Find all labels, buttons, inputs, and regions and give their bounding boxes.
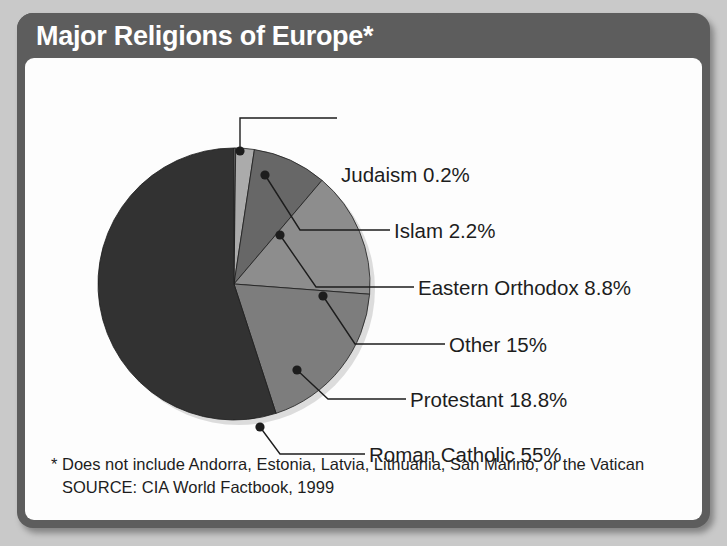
leader-dot-protestant [292, 365, 301, 374]
page-title: Major Religions of Europe* [17, 21, 373, 52]
chart-panel: Judaism 0.2% Islam 2.2% Eastern Orthodox… [25, 58, 702, 520]
leader-dot-roman-catholic [255, 422, 264, 431]
pie-label-islam: Islam 2.2% [394, 219, 495, 243]
leader-line-roman-catholic [260, 427, 365, 454]
pie-label-other: Other 15% [449, 333, 547, 357]
pie-label-eastern-orthodox: Eastern Orthodox 8.8% [418, 276, 631, 300]
footnote-disclaimer: * Does not include Andorra, Estonia, Lat… [51, 453, 691, 476]
footnotes: * Does not include Andorra, Estonia, Lat… [51, 453, 691, 499]
leader-dot-other [318, 291, 327, 300]
leader-dot-islam [260, 170, 269, 179]
footnote-source: SOURCE: CIA World Factbook, 1999 [51, 476, 691, 499]
leader-dot-judaism [235, 146, 244, 155]
pie-label-judaism: Judaism 0.2% [341, 163, 470, 187]
pie-slices [98, 148, 370, 420]
leader-line-judaism [240, 118, 337, 151]
title-tab: Major Religions of Europe* [17, 13, 439, 60]
leader-dot-eastern-orthodox [275, 230, 284, 239]
pie-label-protestant: Protestant 18.8% [410, 388, 567, 412]
pie-chart: Judaism 0.2% Islam 2.2% Eastern Orthodox… [25, 58, 702, 520]
chart-card-frame: Major Religions of Europe* Judaism 0.2% … [17, 13, 710, 528]
